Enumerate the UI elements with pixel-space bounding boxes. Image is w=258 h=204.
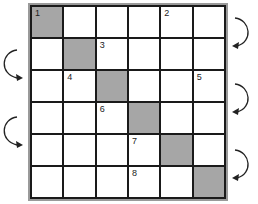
cell-r4c0 xyxy=(31,134,63,166)
cell-r1c5 xyxy=(193,38,225,70)
cell-number: 5 xyxy=(197,72,202,82)
cell-r4c2 xyxy=(96,134,128,166)
cell-r2c5: 5 xyxy=(193,70,225,102)
cell-r3c3 xyxy=(128,102,160,134)
cell-r2c2 xyxy=(96,70,128,102)
cell-r1c1 xyxy=(63,38,95,70)
cell-r0c4: 2 xyxy=(160,6,192,38)
curved-arrow-right-icon xyxy=(1,115,27,149)
cell-r2c4 xyxy=(160,70,192,102)
puzzle-grid: 1 2 3 4 5 6 7 8 xyxy=(30,5,226,199)
cell-r5c2 xyxy=(96,166,128,198)
cell-r4c3: 7 xyxy=(128,134,160,166)
cell-r2c0 xyxy=(31,70,63,102)
cell-number: 6 xyxy=(100,104,105,114)
cell-r5c5 xyxy=(193,166,225,198)
curved-arrow-left-icon xyxy=(229,16,255,50)
cell-number: 7 xyxy=(132,136,137,146)
curved-arrow-left-icon xyxy=(229,82,255,116)
cell-r2c3 xyxy=(128,70,160,102)
grid-frame: 1 2 3 4 5 6 7 8 xyxy=(28,3,228,201)
curved-arrow-left-icon xyxy=(229,148,255,182)
cell-number: 2 xyxy=(164,8,169,18)
cell-r1c3 xyxy=(128,38,160,70)
cell-r0c3 xyxy=(128,6,160,38)
cell-r5c0 xyxy=(31,166,63,198)
cell-r3c2: 6 xyxy=(96,102,128,134)
cell-r4c1 xyxy=(63,134,95,166)
cell-r5c4 xyxy=(160,166,192,198)
curved-arrow-right-icon xyxy=(1,48,27,82)
cell-number: 1 xyxy=(35,8,40,18)
cell-r2c1: 4 xyxy=(63,70,95,102)
cell-r0c1 xyxy=(63,6,95,38)
cell-r3c1 xyxy=(63,102,95,134)
cell-r3c5 xyxy=(193,102,225,134)
cell-r3c4 xyxy=(160,102,192,134)
cell-r4c4 xyxy=(160,134,192,166)
cell-number: 3 xyxy=(100,40,105,50)
cell-r1c4 xyxy=(160,38,192,70)
cell-r0c5 xyxy=(193,6,225,38)
cell-r3c0 xyxy=(31,102,63,134)
cell-r5c1 xyxy=(63,166,95,198)
cell-r1c0 xyxy=(31,38,63,70)
cell-r0c2 xyxy=(96,6,128,38)
cell-r4c5 xyxy=(193,134,225,166)
cell-number: 8 xyxy=(132,168,137,178)
cell-number: 4 xyxy=(67,72,72,82)
cell-r0c0: 1 xyxy=(31,6,63,38)
cell-r5c3: 8 xyxy=(128,166,160,198)
cell-r1c2: 3 xyxy=(96,38,128,70)
